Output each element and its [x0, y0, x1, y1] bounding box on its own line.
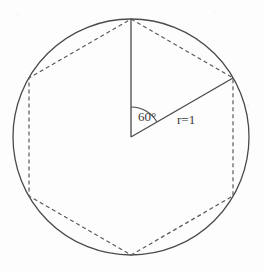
central-angle-label: 60°	[138, 110, 156, 123]
labeled-radius-line	[131, 78, 233, 137]
radius-label: r=1	[177, 113, 195, 126]
paper-noise	[7, 11, 249, 263]
geometry-figure: 60° r=1	[0, 0, 265, 272]
hexagon-in-circle-drawing	[0, 0, 265, 272]
